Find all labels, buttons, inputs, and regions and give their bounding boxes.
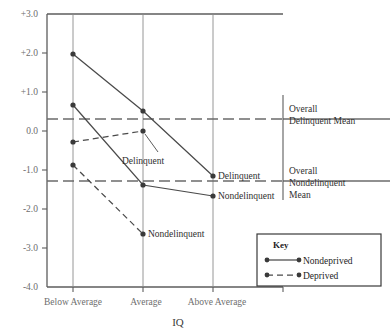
legend-key: Key Nondeprived Deprived xyxy=(257,234,381,286)
legend-label: Nondeprived xyxy=(303,256,353,266)
data-point xyxy=(140,182,145,187)
x-tick-label-above-average: Above Average xyxy=(188,297,247,307)
y-tick-label: 0.0 xyxy=(26,126,38,136)
legend-title: Key xyxy=(273,240,289,250)
data-point xyxy=(140,128,145,133)
annotation-delinquent-right: Delinquent xyxy=(218,171,261,181)
annotation-label: Nondelinquent xyxy=(148,229,205,239)
y-axis-labels: +3.0 +2.0 +1.0 0.0 -1.0 -2.0 -3.0 -4.0 xyxy=(21,9,38,292)
x-tick-label-below-average: Below Average xyxy=(44,297,102,307)
caption-overall-nondelinquent-mean: Overall Nondelinquent Mean xyxy=(289,166,346,200)
data-point xyxy=(210,193,215,198)
y-tick-label: +1.0 xyxy=(21,87,38,97)
data-point xyxy=(210,173,215,178)
x-axis-ticks xyxy=(73,287,283,292)
x-tick-label-average: Average xyxy=(130,297,161,307)
annotation-label: Delinquent xyxy=(218,171,261,181)
chart-figure: +3.0 +2.0 +1.0 0.0 -1.0 -2.0 -3.0 -4.0 B… xyxy=(0,0,390,336)
y-tick-label: +2.0 xyxy=(21,48,38,58)
annotation-nondelinquent-right: Nondelinquent xyxy=(218,191,275,201)
y-tick-label: -3.0 xyxy=(23,243,38,253)
y-tick-label: -4.0 xyxy=(23,282,38,292)
y-tick-label: -1.0 xyxy=(23,165,38,175)
data-point xyxy=(140,231,145,236)
annotation-label: Nondelinquent xyxy=(218,191,275,201)
caption-line: Overall xyxy=(289,104,318,114)
data-point xyxy=(140,108,145,113)
y-tick-label: +3.0 xyxy=(21,9,38,19)
data-point xyxy=(70,162,75,167)
x-axis-labels: Below Average Average Above Average xyxy=(44,297,246,307)
caption-line: Mean xyxy=(289,190,311,200)
legend-label: Deprived xyxy=(303,271,339,281)
data-point xyxy=(70,51,75,56)
caption-overall-delinquent-mean: Overall Delinquent Mean xyxy=(289,104,355,126)
annotation-label: Delinquent xyxy=(122,156,165,166)
y-tick-label: -2.0 xyxy=(23,204,38,214)
category-gridlines xyxy=(73,14,213,287)
annotation-nondelinquent-inner: Nondelinquent xyxy=(148,229,205,239)
plot-frame xyxy=(47,14,283,287)
caption-line: Delinquent Mean xyxy=(289,116,355,126)
caption-line: Nondelinquent xyxy=(289,178,346,188)
data-point xyxy=(70,139,75,144)
data-point xyxy=(70,102,75,107)
caption-line: Overall xyxy=(289,166,318,176)
series-deprived-delinquent xyxy=(70,128,145,144)
y-axis-ticks xyxy=(42,53,47,248)
series-deprived-nondelinquent xyxy=(70,162,145,236)
x-axis-title: IQ xyxy=(172,316,184,328)
